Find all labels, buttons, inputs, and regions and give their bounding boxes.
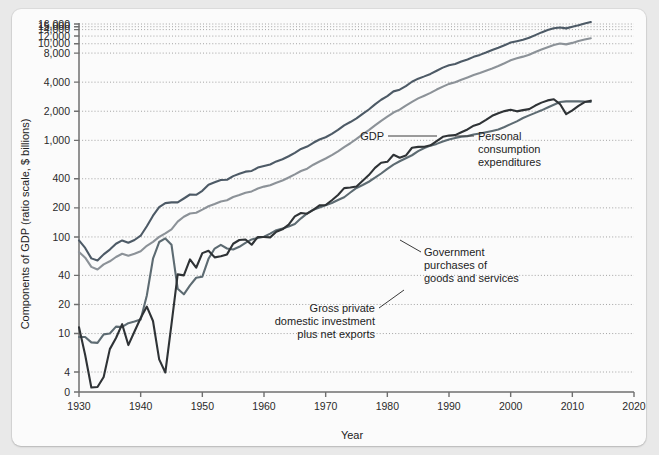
annotation-pce: Personalconsumptionexpenditures: [478, 130, 541, 168]
chart-svg: 041020401002004001,0002,0004,0008,00010,…: [12, 9, 646, 446]
annotation-gdp: GDP: [360, 130, 384, 142]
y-tick-label: 20: [58, 298, 70, 310]
x-axis-title: Year: [341, 429, 364, 441]
annotation-investment-line-0: Gross private: [310, 302, 375, 314]
annotation-pce-line-2: expenditures: [478, 156, 541, 168]
y-tick-label: 10: [58, 327, 70, 339]
y-tick-label: 400: [52, 172, 70, 184]
annotation-government-line-1: purchases of: [424, 259, 488, 271]
annotation-gdp-line-0: GDP: [360, 130, 384, 142]
x-tick-label: 1940: [129, 400, 153, 412]
x-tick-label: 1960: [252, 400, 276, 412]
x-tick-label: 2010: [561, 400, 585, 412]
x-tick-label: 2020: [622, 400, 646, 412]
y-tick-label: 200: [52, 201, 70, 213]
x-tick-label: 1980: [376, 400, 400, 412]
annotation-government-line-0: Government: [424, 246, 485, 258]
leader-line-investment: [379, 290, 404, 308]
x-tick-label: 1950: [191, 400, 215, 412]
leader-line-government: [400, 240, 421, 252]
annotation-pce-line-1: consumption: [478, 143, 540, 155]
y-axis-title: Components of GDP (ratio scale, $ billio…: [19, 119, 31, 330]
annotation-government: Governmentpurchases ofgoods and services: [424, 246, 519, 284]
y-tick-label: 0: [64, 386, 70, 398]
y-tick-label: 4,000: [44, 76, 70, 88]
y-tick-label: 1,000: [44, 134, 70, 146]
x-tick-label: 1990: [437, 400, 461, 412]
y-tick-label: 16,000: [38, 18, 70, 30]
chart-figure-panel: 041020401002004001,0002,0004,0008,00010,…: [12, 9, 646, 446]
y-tick-label: 100: [52, 231, 70, 243]
annotation-pce-line-0: Personal: [478, 130, 521, 142]
annotation-investment-line-1: domestic investment: [275, 315, 375, 327]
tick-labels-group: 041020401002004001,0002,0004,0008,00010,…: [38, 18, 646, 412]
y-tick-label: 2,000: [44, 105, 70, 117]
x-tick-label: 1930: [67, 400, 91, 412]
annotation-investment-line-2: plus net exports: [297, 328, 375, 340]
annotation-investment: Gross privatedomestic investmentplus net…: [275, 302, 376, 340]
annotation-government-line-2: goods and services: [424, 272, 519, 284]
y-tick-label: 40: [58, 269, 70, 281]
annotations-group: GDPPersonalconsumptionexpendituresGovern…: [275, 130, 542, 340]
x-tick-label: 2000: [499, 400, 523, 412]
y-tick-label: 4: [64, 366, 70, 378]
x-tick-label: 1970: [314, 400, 338, 412]
